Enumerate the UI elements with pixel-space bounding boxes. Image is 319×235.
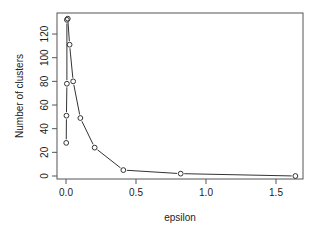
series-segment xyxy=(98,150,121,168)
y-tick-label: 0 xyxy=(39,173,50,179)
data-point xyxy=(64,81,69,86)
data-point xyxy=(121,168,126,173)
data-point xyxy=(71,79,76,84)
x-tick-label: 0.5 xyxy=(129,187,143,198)
data-point xyxy=(64,140,69,145)
chart: 0.00.51.01.5 020406080100120 epsilon Num… xyxy=(0,0,319,235)
x-tick-label: 1.5 xyxy=(269,187,283,198)
series-segment xyxy=(82,121,93,144)
x-tick-label: 0.0 xyxy=(59,187,73,198)
y-tick-label: 120 xyxy=(39,25,50,42)
series-segment xyxy=(184,174,291,176)
plot-box xyxy=(57,13,303,179)
x-axis-label: epsilon xyxy=(164,212,196,223)
y-tick-label: 80 xyxy=(39,75,50,87)
data-point xyxy=(67,42,72,47)
y-tick-label: 100 xyxy=(39,49,50,66)
y-axis-label: Number of clusters xyxy=(14,54,25,138)
data-point xyxy=(293,174,298,179)
data-point xyxy=(64,113,69,118)
series-line xyxy=(66,22,292,176)
series-segment xyxy=(68,22,69,41)
series-segment xyxy=(70,48,73,78)
plot-frame xyxy=(57,13,303,179)
y-tick-label: 20 xyxy=(39,146,50,158)
data-point xyxy=(78,116,83,121)
series-segment xyxy=(127,170,177,173)
y-tick-label: 60 xyxy=(39,99,50,111)
x-axis: 0.00.51.01.5 xyxy=(59,179,283,198)
data-point xyxy=(178,171,183,176)
data-points xyxy=(64,16,298,178)
x-tick-label: 1.0 xyxy=(199,187,213,198)
y-axis: 020406080100120 xyxy=(39,25,57,179)
y-tick-label: 40 xyxy=(39,123,50,135)
series-segment xyxy=(74,85,80,115)
data-point xyxy=(92,145,97,150)
